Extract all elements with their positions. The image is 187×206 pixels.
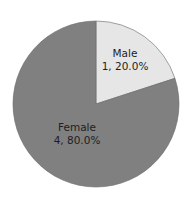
slice-label-female-name: Female — [58, 121, 96, 133]
pie-chart: Male 1, 20.0% Female 4, 80.0% — [0, 0, 187, 206]
slice-label-male-name: Male — [113, 47, 138, 59]
slice-label-female: Female 4, 80.0% — [54, 121, 101, 146]
slice-label-female-detail: 4, 80.0% — [54, 134, 101, 146]
slice-label-male-detail: 1, 20.0% — [102, 60, 149, 72]
